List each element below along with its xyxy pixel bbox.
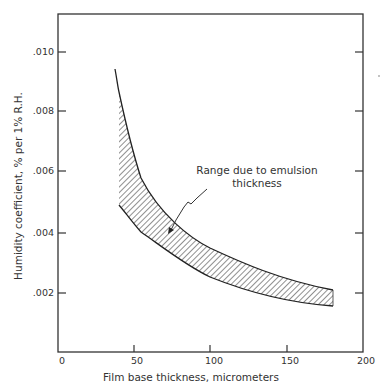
y-tick-label: .006 (33, 165, 54, 176)
x-tick-label: 50 (131, 355, 143, 366)
y-tick-label: .010 (33, 46, 54, 57)
annotation: Range due to emulsion thickness (168, 164, 318, 234)
annotation-text-line2: thickness (232, 177, 282, 189)
x-tick-label: 100 (205, 355, 223, 366)
y-tick-label: .008 (33, 105, 54, 116)
x-tick-label: 200 (357, 355, 375, 366)
x-tick-labels: 0 50 100 150 200 (59, 355, 375, 366)
y-tick-label: .004 (33, 227, 54, 238)
x-axis-label: Film base thickness, micrometers (103, 371, 279, 383)
annotation-text-line1: Range due to emulsion (196, 164, 317, 176)
hatched-range-area (119, 92, 333, 306)
y-tick-labels: .010 .008 .006 .004 .002 (33, 46, 54, 298)
chart: .010 .008 .006 .004 .002 0 50 100 150 20… (0, 0, 387, 388)
speck (378, 75, 380, 77)
x-tick-label: 150 (281, 355, 299, 366)
x-axis-ticks (134, 345, 287, 352)
y-tick-label: .002 (33, 287, 54, 298)
x-tick-label: 0 (59, 355, 65, 366)
y-axis-label: Humidity coefficient, % per 1% R.H. (12, 92, 24, 280)
